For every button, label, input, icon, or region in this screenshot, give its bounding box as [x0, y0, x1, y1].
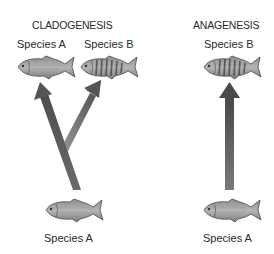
- striped-fish-icon: [81, 56, 138, 79]
- plain-fish-icon: [18, 56, 75, 79]
- striped-fish-icon: [204, 56, 261, 79]
- species-label: Species A: [44, 232, 93, 244]
- arrow-up-icon: [60, 80, 101, 155]
- species-label: Species B: [204, 38, 254, 50]
- species-label: Species A: [17, 38, 66, 50]
- anagenesis-title: ANAGENESIS: [193, 19, 259, 31]
- species-label: Species B: [84, 38, 134, 50]
- plain-fish-icon: [204, 199, 261, 222]
- species-label: Species A: [203, 232, 252, 244]
- arrow-up-icon: [219, 82, 240, 190]
- plain-fish-icon: [46, 199, 103, 222]
- cladogenesis-arrows: [34, 80, 101, 190]
- cladogenesis-title: CLADOGENESIS: [32, 19, 112, 31]
